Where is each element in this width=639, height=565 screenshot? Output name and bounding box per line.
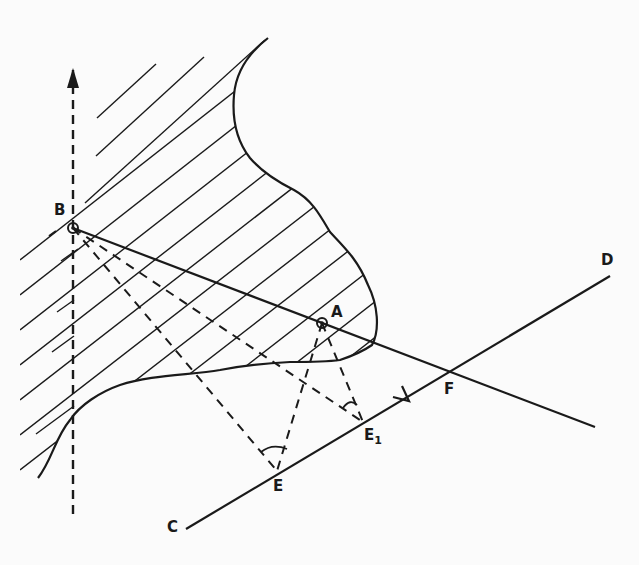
- region-boundary: [38, 38, 377, 478]
- label-E1-subscript: 1: [374, 434, 382, 447]
- direction-arrow-icon: [393, 386, 409, 401]
- angle-mark-E1: [343, 402, 357, 408]
- label-F: F: [444, 382, 454, 397]
- diagram-canvas: B A D F E E1 C: [0, 0, 639, 565]
- label-C: C: [167, 520, 178, 535]
- hatch-pattern: [20, 40, 540, 515]
- label-E1: E1: [364, 428, 382, 443]
- label-A: A: [331, 305, 343, 320]
- line-CD: [186, 276, 610, 529]
- label-B: B: [54, 203, 65, 218]
- line-BA: [73, 228, 595, 427]
- arrow-up-icon: [67, 68, 79, 88]
- label-E1-main: E: [364, 426, 374, 444]
- label-D: D: [601, 253, 613, 268]
- label-E: E: [273, 479, 283, 494]
- geometry-figure: [0, 0, 639, 565]
